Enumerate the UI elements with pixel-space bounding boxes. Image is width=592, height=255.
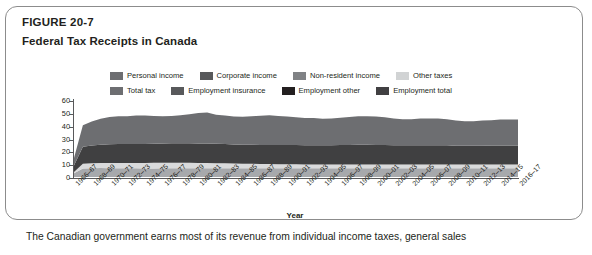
x-axis-title: Year <box>6 211 584 220</box>
x-axis-labels: 1966–671968–691970–711972–731974–751976–… <box>66 180 536 214</box>
legend-label: Employment other <box>299 86 361 95</box>
chart-legend: Personal income Corporate income Non-res… <box>110 69 540 97</box>
y-axis-tick-mark <box>69 127 73 128</box>
legend-label: Employment total <box>393 86 452 95</box>
legend-row-1: Personal income Corporate income Non-res… <box>110 69 540 82</box>
y-axis-labels: 0102030405060 <box>46 95 70 183</box>
legend-swatch-icon <box>110 87 123 95</box>
figure-card: FIGURE 20-7 Federal Tax Receipts in Cana… <box>5 6 583 220</box>
legend-label: Corporate income <box>217 71 277 80</box>
legend-swatch-icon <box>200 72 213 80</box>
legend-label: Total tax <box>127 86 155 95</box>
legend-item-personal-income[interactable]: Personal income <box>110 71 184 80</box>
figure-number: FIGURE 20-7 <box>22 16 94 28</box>
legend-item-employment-insurance[interactable]: Employment insurance <box>171 86 265 95</box>
legend-item-corporate-income[interactable]: Corporate income <box>200 71 277 80</box>
y-axis-tick-mark <box>69 152 73 153</box>
legend-label: Personal income <box>127 71 184 80</box>
legend-item-employment-other[interactable]: Employment other <box>282 86 361 95</box>
figure-title: Federal Tax Receipts in Canada <box>22 35 197 47</box>
legend-swatch-icon <box>282 87 295 95</box>
y-axis-tick-mark <box>69 114 73 115</box>
y-axis-tick-mark <box>69 140 73 141</box>
legend-label: Other taxes <box>413 71 452 80</box>
legend-item-total-tax[interactable]: Total tax <box>110 86 155 95</box>
legend-swatch-icon <box>171 87 184 95</box>
legend-swatch-icon <box>110 72 123 80</box>
legend-item-other-taxes[interactable]: Other taxes <box>396 71 452 80</box>
legend-swatch-icon <box>293 72 306 80</box>
legend-swatch-icon <box>396 72 409 80</box>
legend-row-2: Total tax Employment insurance Employmen… <box>110 84 540 97</box>
y-axis-tick-mark <box>69 178 73 179</box>
legend-item-non-resident-income[interactable]: Non-resident income <box>293 71 380 80</box>
figure-caption: The Canadian government earns most of it… <box>26 230 571 243</box>
y-axis-tick-mark <box>69 101 73 102</box>
legend-swatch-icon <box>376 87 389 95</box>
legend-item-employment-total[interactable]: Employment total <box>376 86 452 95</box>
legend-label: Employment insurance <box>188 86 265 95</box>
y-axis-tick-mark <box>69 165 73 166</box>
legend-label: Non-resident income <box>310 71 380 80</box>
